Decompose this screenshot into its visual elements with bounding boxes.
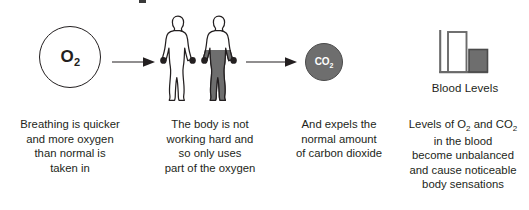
caption-line: And expels the	[302, 118, 377, 130]
caption-line: so only uses	[179, 147, 242, 159]
oxygen-molecule-circle: O2	[39, 26, 101, 88]
oxygen-symbol: O	[61, 47, 74, 66]
caption-text: and CO	[471, 118, 513, 130]
right-arrow-icon	[246, 54, 298, 74]
carbon-dioxide-symbol: CO	[315, 56, 330, 67]
carbon-dioxide-label: CO2	[315, 57, 333, 67]
carbon-dioxide-subscript: 2	[329, 62, 333, 69]
caption-body: The body is not working hard and so only…	[140, 117, 280, 175]
caption-row: Breathing is quicker and more oxygen tha…	[0, 112, 529, 210]
oxygen-subscript: 2	[466, 124, 470, 133]
caption-line: taken in	[50, 162, 90, 174]
caption-line: The body is not	[171, 118, 248, 130]
caption-line: become unbalanced	[412, 149, 514, 161]
icon-row: O2	[0, 0, 529, 112]
caption-oxygen: Breathing is quicker and more oxygen tha…	[2, 117, 138, 175]
human-figure-partly-shaded-icon	[199, 14, 239, 110]
oxygen-label: O2	[61, 48, 80, 65]
bar-chart-icon	[437, 28, 493, 80]
caption-line: of carbon dioxide	[296, 147, 382, 159]
human-figure-outline-icon	[158, 14, 198, 110]
caption-line: part of the oxygen	[165, 162, 256, 174]
caption-line: and more oxygen	[26, 133, 113, 145]
right-arrow-icon	[112, 54, 156, 74]
oxygen-subscript: 2	[74, 56, 80, 68]
caption-line: body sensations	[422, 178, 504, 190]
caption-line: Levels of O2 and CO2	[409, 118, 517, 130]
caption-carbon-dioxide: And expels the normal amount of carbon d…	[276, 117, 402, 161]
caption-line: than normal is	[34, 147, 105, 159]
blood-levels-label: Blood Levels	[404, 82, 526, 94]
carbon-dioxide-molecule-circle: CO2	[305, 43, 343, 81]
infographic-canvas: O2	[0, 0, 529, 210]
caption-blood-levels: Levels of O2 and CO2 in the blood become…	[398, 117, 528, 192]
caption-line: working hard and	[167, 133, 254, 145]
carbon-dioxide-subscript: 2	[513, 124, 517, 133]
caption-line: normal amount	[301, 133, 376, 145]
chart-bar-o2	[448, 32, 467, 72]
chart-bar-co2	[469, 50, 488, 73]
caption-line: Breathing is quicker	[20, 118, 119, 130]
caption-text: Levels of O	[409, 118, 466, 130]
caption-line: and cause noticeable	[410, 164, 517, 176]
caption-line: in the blood	[434, 135, 493, 147]
